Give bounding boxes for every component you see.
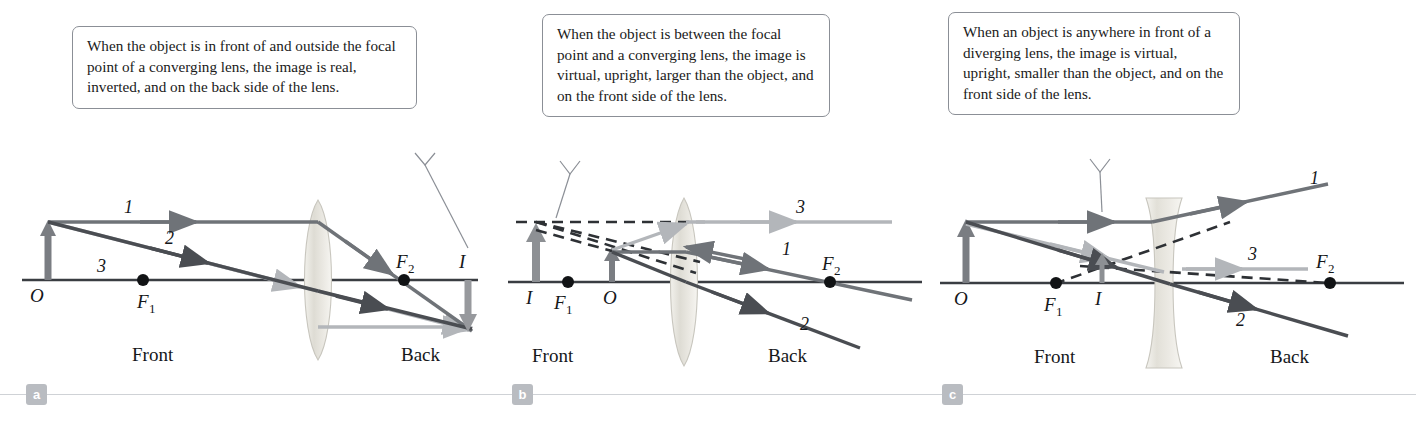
- callout-c-tail: [930, 0, 1416, 424]
- callout-a-tail: [0, 0, 500, 424]
- panel-a: When the object is in front of and outsi…: [0, 0, 500, 424]
- panel-c: When an object is anywhere in front of a…: [930, 0, 1416, 424]
- callout-b-tail: [500, 0, 930, 424]
- lens-ray-diagram-figure: When the object is in front of and outsi…: [0, 0, 1416, 424]
- panel-b: When the object is between the focal poi…: [500, 0, 930, 424]
